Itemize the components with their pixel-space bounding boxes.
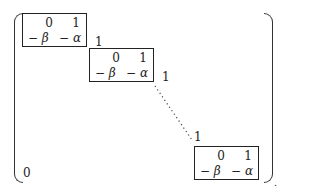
block-3-entry-11: − α (231, 164, 253, 178)
matrix-block-3: 0 1 − β − α (194, 146, 259, 180)
block-3-entry-00: 0 (217, 149, 225, 163)
block-3-entry-10: − β (200, 164, 221, 178)
lower-left-zero: 0 (23, 166, 31, 180)
trailing-period: . (274, 176, 277, 190)
superdiagonal-one-3: 1 (194, 130, 202, 144)
block-3-entry-01: 1 (244, 149, 252, 163)
